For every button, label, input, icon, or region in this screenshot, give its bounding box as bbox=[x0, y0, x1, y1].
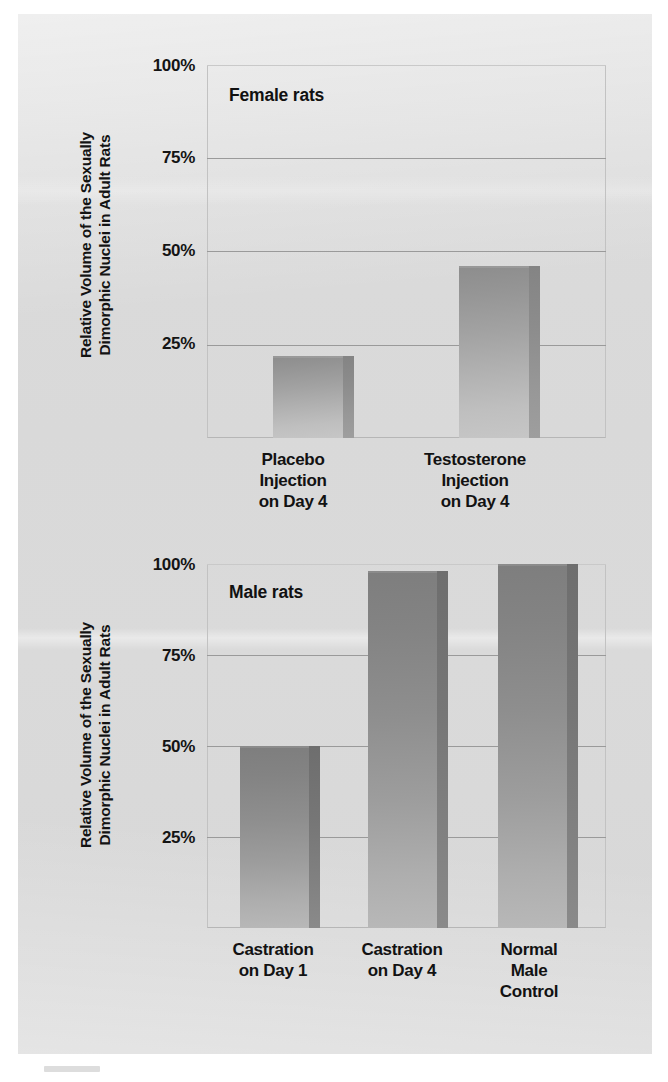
x-label-line: Castration bbox=[200, 939, 346, 960]
y-tick-100-male: 100% bbox=[120, 555, 195, 575]
bar-normal-male-control bbox=[498, 564, 578, 928]
y-axis-title-line1: Relative Volume of the Sexually bbox=[76, 540, 95, 930]
chart-male-rats: Relative Volume of the Sexually Dimorphi… bbox=[0, 0, 668, 1082]
x-label-line: Castration bbox=[329, 939, 475, 960]
y-axis-title-line2: Dimorphic Nuclei in Adult Rats bbox=[95, 540, 114, 930]
bar-side-shadow bbox=[567, 564, 578, 928]
y-axis-title-male: Relative Volume of the Sexually Dimorphi… bbox=[76, 540, 114, 930]
x-label-line: on Day 1 bbox=[200, 960, 346, 981]
figure-page: Relative Volume of the Sexually Dimorphi… bbox=[0, 0, 668, 1082]
bar-face bbox=[240, 746, 309, 928]
bar-top-highlight bbox=[368, 571, 437, 573]
x-label-line: Male bbox=[464, 960, 594, 981]
bar-top-highlight bbox=[498, 564, 567, 566]
x-label-line: on Day 4 bbox=[329, 960, 475, 981]
x-label-normal-male-control: Normal Male Control bbox=[464, 939, 594, 1002]
bar-side-shadow bbox=[437, 571, 448, 928]
y-tick-75-male: 75% bbox=[120, 646, 195, 666]
series-title-male: Male rats bbox=[229, 582, 303, 603]
x-label-castration-day-4: Castration on Day 4 bbox=[329, 939, 475, 981]
bar-face bbox=[368, 571, 437, 928]
y-tick-25-male: 25% bbox=[120, 828, 195, 848]
y-tick-50-male: 50% bbox=[120, 737, 195, 757]
bar-top-highlight bbox=[240, 746, 309, 748]
x-label-line: Control bbox=[464, 981, 594, 1002]
x-label-castration-day-1: Castration on Day 1 bbox=[200, 939, 346, 981]
x-label-line: Normal bbox=[464, 939, 594, 960]
bar-side-shadow bbox=[309, 746, 320, 928]
bar-face bbox=[498, 564, 567, 928]
plot-area-male: Male rats bbox=[207, 564, 606, 928]
bar-castration-day-1 bbox=[240, 746, 320, 928]
bar-castration-day-4 bbox=[368, 571, 448, 928]
